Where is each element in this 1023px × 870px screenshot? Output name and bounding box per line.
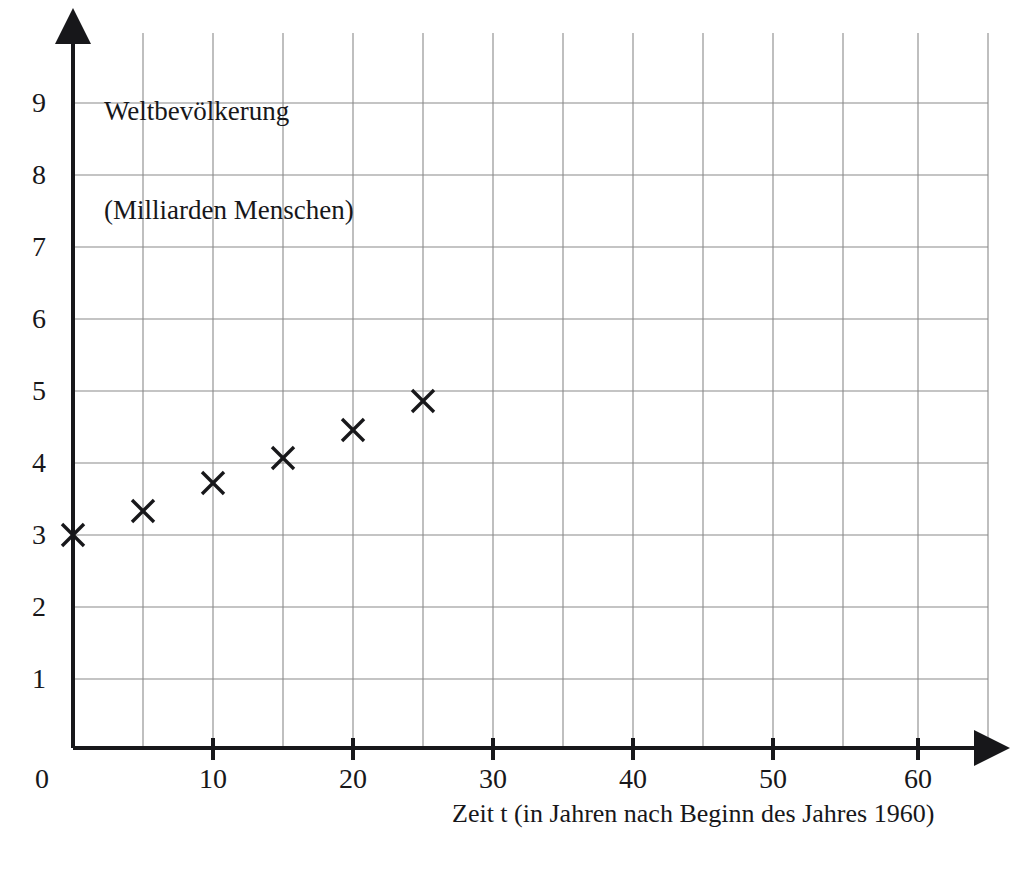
x-tick-label-60: 60 xyxy=(888,765,948,793)
x-axis-title: Zeit t (in Jahren nach Beginn des Jahres… xyxy=(452,797,934,830)
y-tick-label-6: 6 xyxy=(12,305,46,333)
data-point-markers xyxy=(62,390,434,546)
y-tick-label-2: 2 xyxy=(12,593,46,621)
x-tick-label-10: 10 xyxy=(183,765,243,793)
y-tick-label-9: 9 xyxy=(12,89,46,117)
y-axis-title-line-2: (Milliarden Menschen) xyxy=(104,194,354,227)
y-axis-title-line-1: Weltbevölkerung xyxy=(104,95,354,128)
y-tick-label-5: 5 xyxy=(12,377,46,405)
y-tick-label-1: 1 xyxy=(12,665,46,693)
y-tick-label-7: 7 xyxy=(12,233,46,261)
y-tick-label-3: 3 xyxy=(12,521,46,549)
x-tick-label-50: 50 xyxy=(743,765,803,793)
chart-page: Weltbevölkerung (Milliarden Menschen) Ze… xyxy=(0,0,1023,870)
y-axis-title: Weltbevölkerung (Milliarden Menschen) xyxy=(104,29,354,293)
x-tick-label-20: 20 xyxy=(323,765,383,793)
y-tick-label-4: 4 xyxy=(12,449,46,477)
x-tick-label-30: 30 xyxy=(463,765,523,793)
x-tick-label-40: 40 xyxy=(603,765,663,793)
x-tick-label-0: 0 xyxy=(12,765,72,793)
y-tick-label-8: 8 xyxy=(12,161,46,189)
